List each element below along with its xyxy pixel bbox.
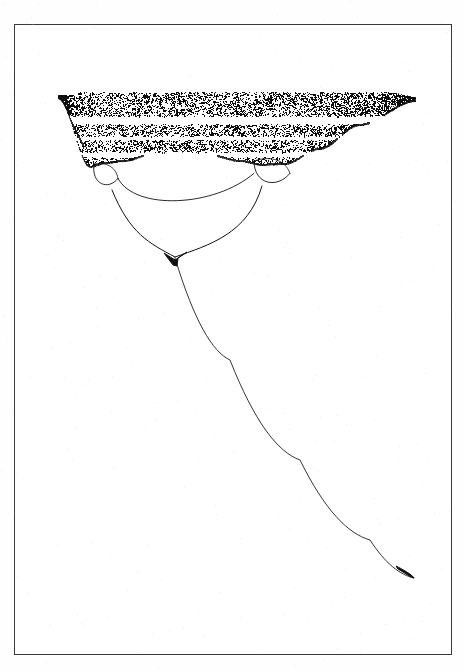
period2-arc-left [112,190,175,257]
chaotic-speckle-region [58,92,418,169]
bifurcation-figure [0,0,464,672]
fixed-point-curve [175,258,414,578]
attractor-curves [94,159,414,578]
period4-bubble-left-lower [94,164,118,185]
speckle-cloud [58,92,418,169]
scanned-page [0,0,464,672]
curve-terminal-hook [396,566,414,578]
period2-arc-right [175,186,262,257]
period2-upper-span [118,173,254,201]
